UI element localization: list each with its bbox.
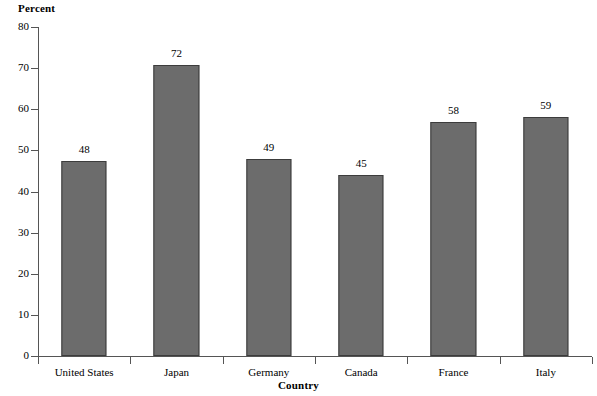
x-category-label: United States: [38, 366, 130, 378]
x-category-label: Japan: [130, 366, 222, 378]
x-tick-mark: [130, 357, 131, 364]
y-tick-label: 10: [3, 309, 29, 320]
x-tick-mark: [315, 357, 316, 364]
bar-slot: 45: [315, 27, 407, 356]
bar-slot: 72: [130, 27, 222, 356]
y-tick-label: 20: [3, 268, 29, 279]
bar[interactable]: [523, 117, 568, 356]
y-tick-label: 70: [3, 62, 29, 73]
bar-value-label: 49: [263, 142, 274, 153]
bar-slot: 59: [500, 27, 592, 356]
x-tick-mark: [223, 357, 224, 364]
x-category-label: Germany: [223, 366, 315, 378]
bar[interactable]: [431, 122, 476, 356]
x-tick-mark: [407, 357, 408, 364]
x-category-label: Canada: [315, 366, 407, 378]
bar[interactable]: [154, 65, 199, 356]
bar-value-label: 45: [356, 158, 367, 169]
x-tick-mark: [592, 357, 593, 364]
bar[interactable]: [246, 159, 291, 356]
y-tick-label: 30: [3, 227, 29, 238]
bar-slot: 49: [223, 27, 315, 356]
bar[interactable]: [62, 161, 107, 356]
bar-value-label: 72: [171, 48, 182, 59]
x-tick-mark: [38, 357, 39, 364]
bar[interactable]: [339, 175, 384, 356]
bar-chart: Percent 01020304050607080 487249455859 U…: [0, 0, 597, 396]
bar-value-label: 58: [448, 105, 459, 116]
y-tick-label: 50: [3, 144, 29, 155]
y-tick-label: 0: [3, 350, 29, 361]
y-tick-label: 80: [3, 21, 29, 32]
y-tick-label: 60: [3, 103, 29, 114]
bar-value-label: 59: [540, 100, 551, 111]
bar-slot: 58: [407, 27, 499, 356]
bar-slot: 48: [38, 27, 130, 356]
y-tick-label: 40: [3, 186, 29, 197]
plot-area: 487249455859: [38, 27, 592, 356]
bar-value-label: 48: [79, 144, 90, 155]
y-axis-title: Percent: [18, 2, 55, 14]
x-tick-mark: [500, 357, 501, 364]
x-axis-title: Country: [0, 379, 597, 391]
x-category-label: France: [407, 366, 499, 378]
x-category-label: Italy: [500, 366, 592, 378]
